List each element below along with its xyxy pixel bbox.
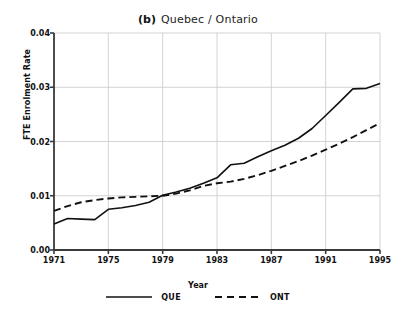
chart-legend: QUEONT bbox=[0, 292, 396, 302]
legend-key-solid-line-icon bbox=[106, 292, 152, 302]
x-tick-label: 1975 bbox=[83, 256, 133, 265]
y-tick-label: 0.01 bbox=[10, 191, 50, 200]
legend-entry-ont: ONT bbox=[215, 292, 290, 302]
gridlines bbox=[54, 33, 380, 250]
legend-label: QUE bbox=[161, 293, 181, 302]
legend-key-dashed-line-icon bbox=[215, 292, 261, 302]
x-tick-label: 1979 bbox=[138, 256, 188, 265]
legend-entry-que: QUE bbox=[106, 292, 181, 302]
chart-figure: (b)Quebec / Ontario 0.000.010.020.030.04… bbox=[0, 0, 396, 312]
y-axis-title: FTE Enrolment Rate bbox=[23, 20, 32, 170]
x-axis-title: Year bbox=[0, 281, 396, 290]
x-tick-label: 1987 bbox=[246, 256, 296, 265]
x-tick-label: 1991 bbox=[301, 256, 351, 265]
x-axis-tick-labels: 1971197519791983198719911995 bbox=[0, 256, 396, 270]
x-tick-label: 1971 bbox=[29, 256, 79, 265]
x-tick-label: 1983 bbox=[192, 256, 242, 265]
x-tick-label: 1995 bbox=[355, 256, 396, 265]
legend-label: ONT bbox=[270, 293, 290, 302]
y-tick-label: 0.00 bbox=[10, 246, 50, 255]
axis-ticks bbox=[50, 33, 380, 254]
